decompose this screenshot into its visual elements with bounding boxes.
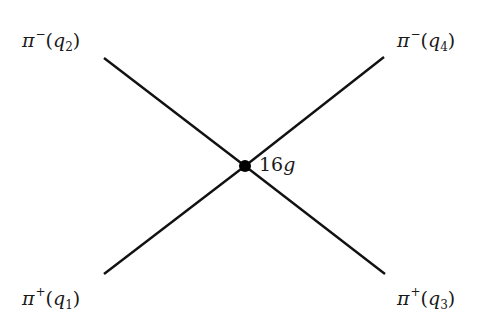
charge: − [36,27,46,41]
interaction-vertex [239,160,251,172]
charge: + [36,285,46,299]
momentum: q [428,29,440,51]
momentum: q [428,287,440,309]
particle-symbol: π [397,287,410,309]
momentum-index: 1 [65,298,73,312]
label-bottom-left: π+(q1) [22,286,80,311]
open-paren: ( [421,29,428,51]
open-paren: ( [421,287,428,309]
label-bottom-right: π+(q3) [397,286,455,311]
label-top-left: π−(q2) [22,28,80,53]
leg-line-top-left [104,58,245,166]
momentum-index: 2 [65,40,73,54]
particle-symbol: π [397,29,410,51]
close-paren: ) [448,287,455,309]
leg-line-bottom-left [104,166,245,274]
particle-symbol: π [22,287,35,309]
close-paren: ) [73,29,80,51]
particle-symbol: π [22,29,35,51]
coupling-symbol: g [283,153,295,175]
momentum: q [53,29,65,51]
leg-line-bottom-right [245,166,385,274]
close-paren: ) [73,287,80,309]
close-paren: ) [448,29,455,51]
leg-line-top-right [245,57,384,166]
charge: + [411,285,421,299]
open-paren: ( [46,29,53,51]
charge: − [411,27,421,41]
label-top-right: π−(q4) [397,28,455,53]
momentum-index: 4 [440,40,448,54]
momentum-index: 3 [440,298,448,312]
momentum: q [53,287,65,309]
open-paren: ( [46,287,53,309]
coupling-label: 16g [259,155,295,174]
coupling-coefficient: 16 [259,153,283,175]
